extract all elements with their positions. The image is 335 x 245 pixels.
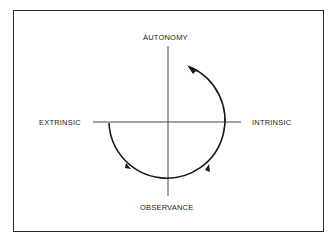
label-observance: OBSERVANCE [140,203,193,212]
label-extrinsic: EXTRINSIC [39,118,81,127]
arrowhead-end-icon [187,65,197,74]
cycle-arc [109,67,225,178]
label-autonomy: AUTONOMY [143,33,188,42]
arrowhead-right-icon [205,164,210,172]
label-intrinsic: INTRINSIC [252,118,291,127]
